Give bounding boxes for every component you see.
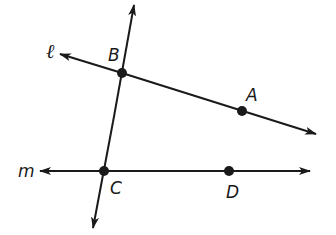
label-line-m: m xyxy=(18,161,35,181)
label-b: B xyxy=(108,45,120,65)
geometry-diagram: A B C D ℓ m xyxy=(0,0,336,235)
point-b xyxy=(117,68,127,78)
label-a: A xyxy=(245,85,258,105)
label-d: D xyxy=(226,182,239,202)
point-c xyxy=(99,166,109,176)
label-c: C xyxy=(110,178,122,198)
line-l xyxy=(122,73,316,134)
point-a xyxy=(237,106,247,116)
label-line-l: ℓ xyxy=(46,39,55,63)
point-d xyxy=(224,166,234,176)
